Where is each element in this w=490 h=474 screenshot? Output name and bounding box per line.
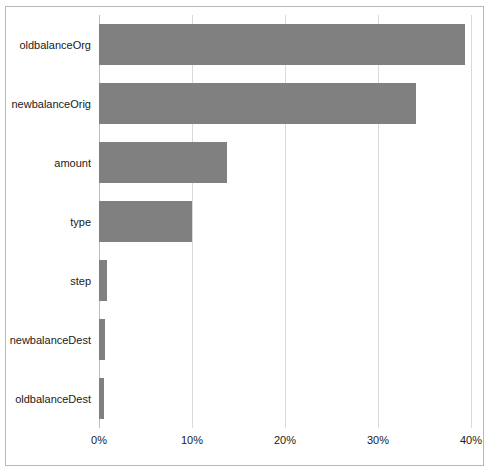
bar-row	[99, 192, 471, 251]
bar-step[interactable]	[99, 260, 107, 301]
y-tick-label-newbalanceDest: newbalanceDest	[0, 334, 91, 346]
x-tick-label-40: 40%	[460, 434, 482, 446]
bar-row	[99, 15, 471, 74]
bar-row	[99, 310, 471, 369]
x-tick-label-30: 30%	[367, 434, 389, 446]
x-axis: 0%10%20%30%40%	[6, 434, 485, 458]
y-tick-label-amount: amount	[0, 157, 91, 169]
y-tick-label-step: step	[0, 275, 91, 287]
x-tick-label-10: 10%	[181, 434, 203, 446]
y-tick-label-oldbalanceDest: oldbalanceDest	[0, 393, 91, 405]
y-tick-label-newbalanceOrig: newbalanceOrig	[0, 98, 91, 110]
y-tick-label-type: type	[0, 216, 91, 228]
y-axis: oldbalanceOrgnewbalanceOrigamounttypeste…	[6, 15, 91, 428]
bar-newbalanceOrig[interactable]	[99, 83, 416, 124]
bar-row	[99, 74, 471, 133]
bar-row	[99, 133, 471, 192]
bar-oldbalanceOrg[interactable]	[99, 24, 465, 65]
x-tick-label-0: 0%	[91, 434, 107, 446]
bar-oldbalanceDest[interactable]	[99, 378, 104, 419]
bar-type[interactable]	[99, 201, 192, 242]
bar-row	[99, 251, 471, 310]
bar-newbalanceDest[interactable]	[99, 319, 105, 360]
chart-frame: oldbalanceOrgnewbalanceOrigamounttypeste…	[5, 6, 484, 466]
bar-amount[interactable]	[99, 142, 227, 183]
y-tick-label-oldbalanceOrg: oldbalanceOrg	[0, 39, 91, 51]
bar-row	[99, 369, 471, 428]
plot-area	[99, 15, 471, 428]
gridline-40	[471, 15, 472, 428]
x-tick-label-20: 20%	[274, 434, 296, 446]
